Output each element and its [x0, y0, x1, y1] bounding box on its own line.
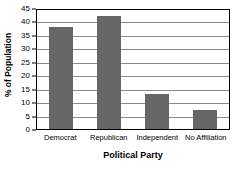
y-tick-label: 20	[21, 72, 30, 80]
y-tick-label: 30	[21, 45, 30, 53]
bar	[145, 94, 169, 129]
bar-slot	[37, 10, 85, 129]
bar-slot	[133, 10, 181, 129]
y-tick-label: 40	[21, 18, 30, 26]
y-axis-tick-labels: 051015202530354045	[16, 9, 32, 130]
y-tick-label: 45	[21, 5, 30, 13]
bar	[97, 16, 121, 129]
bar-chart: % of Population 051015202530354045 Democ…	[0, 0, 237, 171]
x-tick-label: Republican	[85, 133, 134, 142]
x-tick-label: Democrat	[36, 133, 85, 142]
plot-area	[36, 9, 230, 130]
x-tick-label: No Affiliation	[182, 133, 231, 142]
y-tick-label: 5	[26, 113, 30, 121]
bar-slot	[181, 10, 229, 129]
y-tick-label: 0	[26, 126, 30, 134]
y-tick-label: 25	[21, 59, 30, 67]
bar	[49, 27, 73, 129]
x-tick-label: Independent	[133, 133, 182, 142]
y-axis-title: % of Population	[0, 0, 16, 130]
bar	[193, 110, 217, 129]
y-tick-label: 10	[21, 99, 30, 107]
bars-layer	[37, 10, 229, 129]
x-axis-tick-labels: DemocratRepublicanIndependentNo Affiliat…	[36, 133, 230, 142]
x-axis-title: Political Party	[36, 150, 230, 160]
y-tick-label: 15	[21, 86, 30, 94]
bar-slot	[85, 10, 133, 129]
y-tick-label: 35	[21, 32, 30, 40]
y-axis-title-text: % of Population	[3, 33, 13, 97]
